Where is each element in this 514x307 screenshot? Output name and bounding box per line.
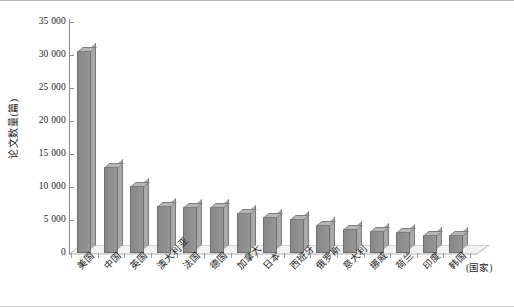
y-tick-label: 20 000 (8, 116, 66, 126)
y-tick-mark (69, 55, 74, 56)
bar-column (263, 217, 277, 253)
bar-front-face (210, 207, 224, 253)
bar-column (157, 206, 171, 253)
x-axis-title: (国家) (466, 263, 492, 273)
chart-figure: 论文数量(篇) 05 00010 00015 00020 00025 00030… (0, 0, 514, 307)
x-tick-mark (284, 253, 285, 258)
bar-column (237, 213, 251, 253)
bar-front-face (77, 51, 91, 253)
y-tick-label: 35 000 (8, 17, 66, 27)
x-tick-mark (71, 253, 72, 258)
bar-front-face (130, 186, 144, 253)
x-tick-mark (204, 253, 205, 258)
y-tick-label: 5 000 (8, 215, 66, 225)
x-tick-mark (390, 253, 391, 258)
x-tick-mark (98, 253, 99, 258)
y-tick-label-wrap: 15 000 (0, 149, 66, 159)
x-tick-mark (151, 253, 152, 258)
bar-front-face (290, 219, 304, 253)
bar-column (130, 186, 144, 253)
y-tick-label-wrap: 5 000 (0, 215, 66, 225)
y-tick-label-wrap: 0 (0, 248, 66, 258)
y-tick-label-wrap: 25 000 (0, 83, 66, 93)
y-tick-label: 25 000 (8, 83, 66, 93)
bar-side-face (144, 178, 149, 249)
y-tick-label: 10 000 (8, 182, 66, 192)
y-tick-mark (69, 121, 74, 122)
bar-front-face (237, 213, 251, 253)
y-tick-mark (69, 22, 74, 23)
y-tick-label: 30 000 (8, 50, 66, 60)
y-tick-mark (69, 154, 74, 155)
y-tick-label-wrap: 30 000 (0, 50, 66, 60)
bar-column (210, 207, 224, 253)
y-tick-mark (69, 220, 74, 221)
bar-side-face (118, 159, 123, 249)
y-tick-label: 0 (8, 248, 66, 258)
chart-plot-area: 论文数量(篇) 05 00010 00015 00020 00025 00030… (0, 1, 514, 307)
bar-front-face (104, 167, 118, 253)
bar-column (290, 219, 304, 253)
x-tick-mark (443, 253, 444, 258)
bar-side-face (437, 227, 442, 249)
bar-column (77, 51, 91, 253)
y-tick-mark (69, 187, 74, 188)
x-tick-mark (417, 253, 418, 258)
y-tick-mark (69, 88, 74, 89)
bar-column (104, 167, 118, 253)
y-tick-label-wrap: 20 000 (0, 116, 66, 126)
bar-front-face (157, 206, 171, 253)
y-tick-label: 15 000 (8, 149, 66, 159)
x-tick-mark (231, 253, 232, 258)
bar-front-face (263, 217, 277, 253)
y-tick-label-wrap: 35 000 (0, 17, 66, 27)
y-tick-label-wrap: 10 000 (0, 182, 66, 192)
bar-side-face (91, 43, 96, 249)
x-tick-mark (470, 253, 471, 258)
x-tick-mark (124, 253, 125, 258)
